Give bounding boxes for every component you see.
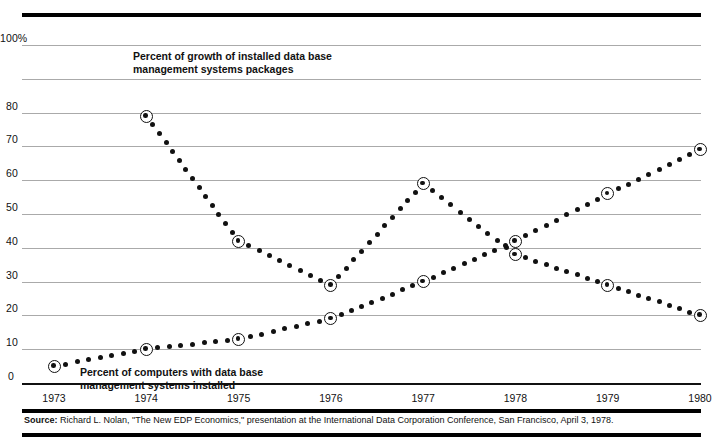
series-dot [677,306,682,311]
series-dot [305,321,310,326]
series-dot [441,270,446,275]
series-dot [448,202,453,207]
series-dot [533,259,538,264]
series-dot [223,221,228,226]
series-dot [687,152,692,157]
series-dot [533,228,538,233]
series-dot [467,217,472,222]
series-dot [75,359,80,364]
series-dot [667,303,672,308]
y-axis-tick-label: 60 [6,167,46,179]
series-dot [616,186,621,191]
series-dot [367,240,372,245]
data-point-marker[interactable] [694,309,707,322]
series-dot [282,326,287,331]
series-dot [636,293,641,298]
series-dot [344,266,349,271]
y-axis-tick-label: 0 [8,370,48,382]
series-dot [271,329,276,334]
series-dot [544,223,549,228]
series-dot [626,182,631,187]
series-dot [687,310,692,315]
series-dot [359,304,364,309]
series-dot [405,198,410,203]
data-point-marker[interactable] [601,187,614,200]
series-dot [287,263,292,268]
series-dot [564,212,569,217]
series-dot [257,248,262,253]
y-axis-tick-label: 100% [0,32,40,44]
data-point-marker[interactable] [232,235,245,248]
series-dot [646,172,651,177]
series-dot [585,202,590,207]
data-point-marker[interactable] [232,333,245,346]
data-point-marker[interactable] [509,235,522,248]
data-point-marker[interactable] [417,275,430,288]
data-point-marker[interactable] [601,279,614,292]
series-dot [121,351,126,356]
series-label-growth: Percent of growth of installed data base… [133,50,332,75]
gridline [22,180,701,181]
data-point-marker[interactable] [140,343,153,356]
series-dot [197,185,202,190]
series-dot [230,230,235,235]
x-axis-tick-label: 1980 [665,392,723,404]
series-dot [476,224,481,229]
data-point-marker[interactable] [140,110,153,123]
series-dot [616,286,621,291]
series-dot [390,292,395,297]
gridline [22,315,701,316]
data-point-marker[interactable] [509,248,522,261]
series-dot [308,273,313,278]
data-point-marker[interactable] [48,360,61,373]
series-dot [657,299,662,304]
series-dot [359,249,364,254]
series-dot [225,338,230,343]
y-axis-tick-label: 10 [6,336,46,348]
series-dot [439,195,444,200]
series-dot [472,257,477,262]
series-dot [150,122,155,127]
series-dot [398,206,403,211]
series-dot [482,252,487,257]
y-axis-tick-label: 50 [6,201,46,213]
series-dot [382,223,387,228]
series-dot [178,343,183,348]
data-point-marker[interactable] [324,279,337,292]
series-dot [431,275,436,280]
y-axis-tick-label: 30 [6,269,46,281]
series-dot [213,339,218,344]
data-point-marker[interactable] [417,177,430,190]
series-dot [495,238,500,243]
series-dot [677,157,682,162]
series-dot [554,266,559,271]
series-dot [492,248,497,253]
series-dot [164,140,169,145]
y-axis-tick-label: 80 [6,100,46,112]
series-dot [503,243,508,248]
series-dot [267,253,272,258]
series-dot [626,289,631,294]
x-axis-tick-label: 1977 [388,392,458,404]
series-dot [585,276,590,281]
x-axis-tick-label: 1976 [296,392,366,404]
series-dot [595,279,600,284]
plot-area [22,45,701,383]
gridline [22,146,701,147]
series-dot [458,210,463,215]
y-axis-tick-label: 70 [6,133,46,145]
series-dot [349,308,354,313]
series-dot [575,272,580,277]
y-axis-tick-label: 20 [6,302,46,314]
series-dot [351,257,356,262]
series-dot [339,312,344,317]
gridline [22,79,701,80]
series-dot [294,324,299,329]
data-point-marker[interactable] [324,312,337,325]
series-dot [636,177,641,182]
series-dot [667,162,672,167]
series-dot [564,269,569,274]
series-dot [86,357,91,362]
series-dot [317,319,322,324]
data-point-marker[interactable] [694,143,707,156]
